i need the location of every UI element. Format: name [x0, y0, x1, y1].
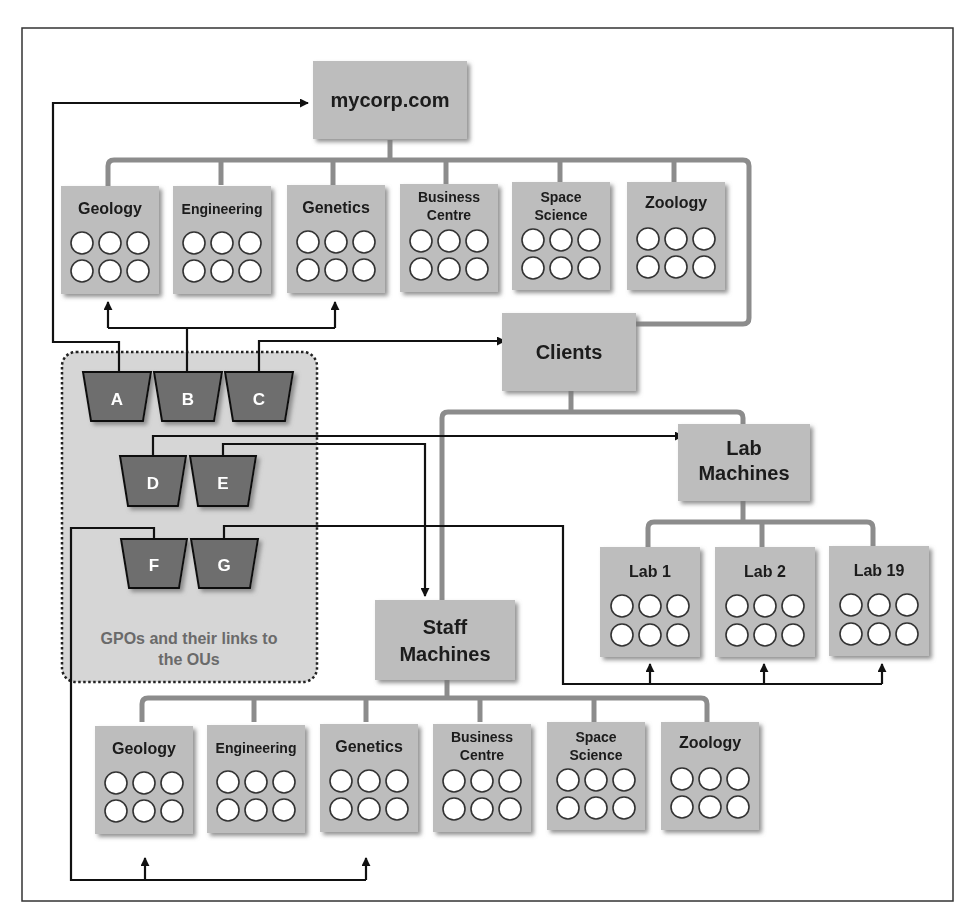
svg-text:the OUs: the OUs [158, 651, 219, 668]
svg-text:Machines: Machines [399, 643, 490, 665]
ou-lab-19[interactable]: Lab 19 [829, 546, 929, 656]
svg-text:Engineering: Engineering [216, 740, 297, 756]
svg-text:Space: Space [575, 729, 616, 745]
svg-text:Genetics: Genetics [335, 738, 403, 755]
ou-lab-1[interactable]: Lab 1 [600, 547, 700, 657]
gpo-e[interactable]: E [190, 456, 256, 506]
svg-text:Zoology: Zoology [645, 194, 707, 211]
ou-lab-machines[interactable]: Lab Machines [678, 424, 810, 501]
gpo-f-label: F [149, 556, 159, 575]
svg-text:Engineering: Engineering [182, 201, 263, 217]
gpo-g-label: G [217, 556, 230, 575]
ou-staff-business-centre[interactable]: Business Centre [433, 724, 531, 832]
ou-lab-2[interactable]: Lab 2 [715, 547, 815, 657]
gpo-ou-diagram: A B C D E F G GPOs and their links to th… [0, 0, 976, 917]
clients-label: Clients [536, 341, 603, 363]
ou-root-mycorp[interactable]: mycorp.com [313, 61, 467, 139]
gpo-b[interactable]: B [154, 372, 222, 421]
ou-top-zoology[interactable]: Zoology [627, 182, 725, 290]
ou-clients[interactable]: Clients [502, 313, 636, 391]
svg-text:Centre: Centre [460, 747, 505, 763]
svg-text:Business: Business [451, 729, 513, 745]
ou-staff-engineering[interactable]: Engineering [207, 725, 305, 833]
ou-staff-space-science[interactable]: Space Science [547, 722, 645, 830]
svg-text:Business: Business [418, 189, 480, 205]
ou-staff-zoology[interactable]: Zoology [661, 722, 759, 830]
svg-text:Lab: Lab [726, 437, 762, 459]
svg-text:Lab 1: Lab 1 [629, 563, 671, 580]
ou-top-business-centre[interactable]: Business Centre [400, 184, 498, 292]
ou-staff-machines[interactable]: Staff Machines [375, 600, 515, 680]
svg-text:Geology: Geology [112, 740, 176, 757]
gpo-a-label: A [111, 390, 123, 409]
gpo-b-label: B [182, 390, 194, 409]
svg-text:Machines: Machines [698, 462, 789, 484]
gpo-a[interactable]: A [83, 372, 151, 421]
gpo-d-label: D [147, 474, 159, 493]
ou-staff-genetics[interactable]: Genetics [320, 724, 418, 832]
svg-text:Geology: Geology [78, 200, 142, 217]
gpo-g[interactable]: G [191, 539, 258, 588]
gpo-c[interactable]: C [225, 372, 293, 421]
svg-text:Zoology: Zoology [679, 734, 741, 751]
svg-text:Space: Space [540, 189, 581, 205]
root-label: mycorp.com [331, 89, 450, 111]
svg-text:Staff: Staff [423, 616, 468, 638]
gpo-d[interactable]: D [120, 456, 186, 506]
svg-text:GPOs and their links to: GPOs and their links to [101, 630, 278, 647]
ou-top-space-science[interactable]: Space Science [512, 182, 610, 290]
svg-text:Genetics: Genetics [302, 199, 370, 216]
ou-top-engineering[interactable]: Engineering [173, 186, 271, 294]
ou-top-geology[interactable]: Geology [61, 186, 159, 294]
gpo-e-label: E [217, 474, 228, 493]
svg-text:Centre: Centre [427, 207, 472, 223]
gpo-c-label: C [253, 390, 265, 409]
svg-text:Science: Science [570, 747, 623, 763]
svg-text:Lab 2: Lab 2 [744, 563, 786, 580]
svg-text:Lab 19: Lab 19 [854, 562, 905, 579]
gpo-f[interactable]: F [121, 539, 187, 588]
ou-top-genetics[interactable]: Genetics [287, 185, 385, 293]
ou-staff-geology[interactable]: Geology [95, 726, 193, 834]
svg-text:Science: Science [535, 207, 588, 223]
